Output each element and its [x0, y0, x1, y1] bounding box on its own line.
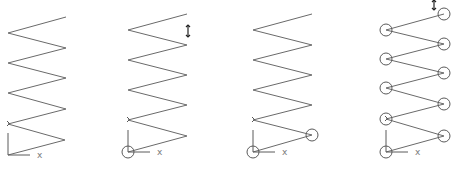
x-axis-label: x — [157, 147, 163, 157]
x-axis-label: x — [415, 147, 421, 157]
zigzag-polyline — [128, 14, 187, 152]
spring-panel-3: x — [247, 14, 318, 158]
zigzag-polyline — [386, 14, 444, 152]
spring-panel-1: x — [7, 17, 66, 160]
spring-diagram: xxxx — [0, 0, 462, 169]
spring-panel-4: x — [380, 0, 450, 158]
zigzag-polyline — [8, 17, 66, 155]
x-axis-label: x — [37, 150, 43, 160]
x-axis-label: x — [282, 147, 288, 157]
zigzag-polyline — [253, 14, 312, 152]
spring-panel-2: x — [122, 14, 190, 158]
